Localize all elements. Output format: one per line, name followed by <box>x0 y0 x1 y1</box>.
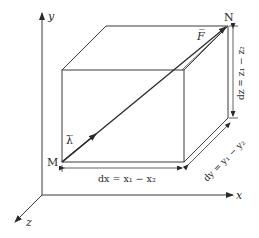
box-top-left-edge <box>62 26 106 70</box>
z-axis-label: z <box>25 216 32 229</box>
point-m-label: M <box>47 156 58 169</box>
unit-vector-label: λ̅ <box>66 134 73 147</box>
point-n-label: N <box>224 11 234 24</box>
dx-dimension <box>62 165 182 172</box>
dz-label: dz = z₁ − z₂ <box>236 46 246 100</box>
box-front-face <box>62 70 184 162</box>
x-axis-label: x <box>236 189 243 202</box>
vector-box-diagram: y x z M N F̅ λ̅ dx = x₁ − x₂ dy = y₁ − y… <box>0 0 259 238</box>
dx-label: dx = x₁ − x₂ <box>98 173 156 184</box>
force-vector-label: F̅ <box>196 29 205 43</box>
y-axis-label: y <box>47 10 55 23</box>
axes <box>15 13 233 222</box>
